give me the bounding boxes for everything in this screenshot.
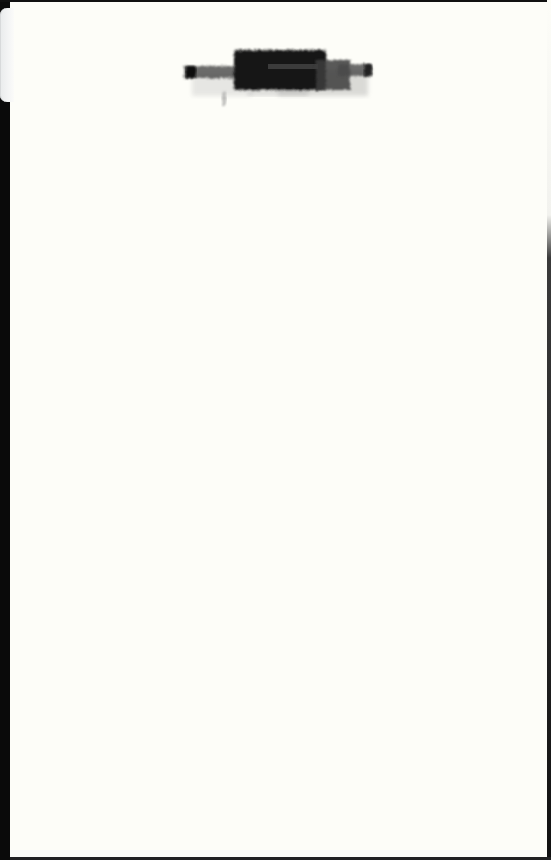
redaction-blot — [178, 44, 378, 110]
document-page — [10, 2, 547, 857]
scan-right-border — [547, 0, 551, 860]
ink-smudge-icon — [178, 44, 378, 110]
scan-left-border — [0, 100, 10, 860]
page-tab — [0, 8, 14, 102]
